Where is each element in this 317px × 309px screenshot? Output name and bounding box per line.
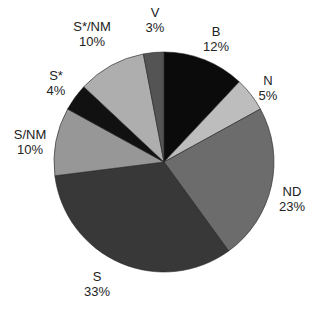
slice-percent: 33% [84,284,110,299]
slice-name: V [146,5,165,20]
slice-name: S/NM [14,127,47,142]
slice-percent: 12% [203,39,229,54]
slice-label: ND23% [279,184,305,214]
slice-label: S*/NM10% [73,19,111,49]
slice-percent: 10% [73,34,111,49]
slice-name: ND [279,184,305,199]
slice-name: N [259,73,278,88]
slice-percent: 23% [279,199,305,214]
slice-label: S/NM10% [14,127,47,157]
slice-label: V3% [146,5,165,35]
slice-percent: 10% [14,142,47,157]
slice-percent: 5% [259,88,278,103]
slice-percent: 4% [47,83,66,98]
slice-name: S [84,269,110,284]
slice-name: S* [47,68,66,83]
slice-label: S*4% [47,68,66,98]
slice-name: S*/NM [73,19,111,34]
slice-label: S33% [84,269,110,299]
slice-label: B12% [203,24,229,54]
slice-name: B [203,24,229,39]
pie-chart [0,0,317,309]
pie-slices [54,52,274,272]
slice-label: N5% [259,73,278,103]
slice-percent: 3% [146,20,165,35]
